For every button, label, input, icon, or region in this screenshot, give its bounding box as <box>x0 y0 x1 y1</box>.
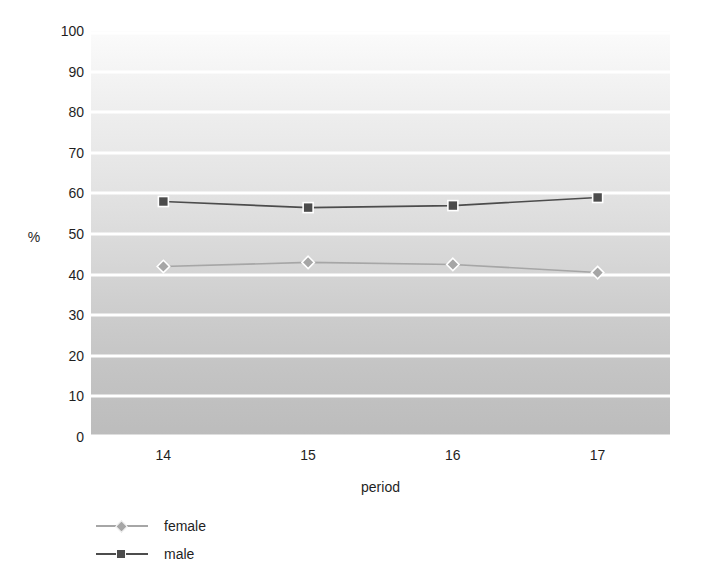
y-tick-label: 90 <box>52 65 84 79</box>
y-tick-label: 50 <box>52 227 84 241</box>
legend-item-female: female <box>96 512 356 540</box>
legend-key <box>96 546 148 562</box>
square-marker <box>448 201 458 211</box>
series-layer <box>91 31 670 437</box>
y-tick-label: 40 <box>52 268 84 282</box>
series-line-female <box>163 262 597 272</box>
x-axis-tick-labels: 14151617 <box>91 447 670 467</box>
square-marker <box>158 197 168 207</box>
line-chart: % 0102030405060708090100 14151617 period… <box>0 0 707 574</box>
legend-key <box>96 518 148 534</box>
y-tick-label: 20 <box>52 349 84 363</box>
y-tick-label: 30 <box>52 308 84 322</box>
diamond-marker <box>591 266 603 278</box>
x-tick-label: 14 <box>133 447 193 463</box>
square-marker <box>116 549 126 559</box>
diamond-marker <box>447 258 459 270</box>
diamond-marker <box>115 520 128 533</box>
y-tick-label: 80 <box>52 105 84 119</box>
y-tick-label: 100 <box>52 24 84 38</box>
chart-legend: femalemale <box>96 512 356 568</box>
y-axis-title: % <box>22 229 46 245</box>
legend-item-male: male <box>96 540 356 568</box>
series-line-male <box>163 197 597 207</box>
x-tick-label: 15 <box>278 447 338 463</box>
x-tick-label: 17 <box>568 447 628 463</box>
y-tick-label: 0 <box>52 430 84 444</box>
y-tick-label: 10 <box>52 389 84 403</box>
diamond-marker <box>302 256 314 268</box>
y-axis-tick-labels: 0102030405060708090100 <box>52 31 84 437</box>
y-tick-label: 60 <box>52 186 84 200</box>
x-tick-label: 16 <box>423 447 483 463</box>
diamond-marker <box>157 260 169 272</box>
square-marker <box>593 192 603 202</box>
y-tick-label: 70 <box>52 146 84 160</box>
square-marker <box>303 203 313 213</box>
legend-label: female <box>148 518 206 534</box>
legend-label: male <box>148 546 194 562</box>
x-axis-title: period <box>91 479 670 495</box>
plot-area <box>91 31 670 437</box>
